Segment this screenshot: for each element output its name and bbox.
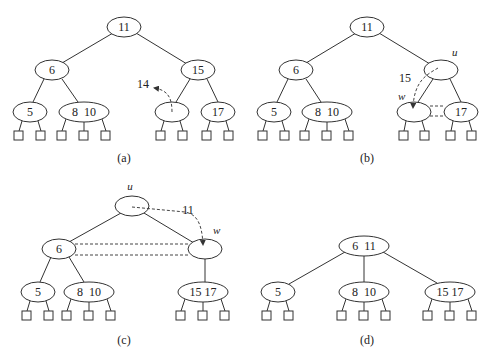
node-label: 6 11 [352, 239, 376, 253]
label-u: u [452, 46, 458, 58]
node-label: 5 [35, 285, 41, 299]
annotation-key: 14 [137, 77, 149, 91]
node-label: 8 10 [352, 285, 376, 299]
annotation-key: 11 [182, 203, 194, 217]
node-label: 17 [212, 105, 224, 119]
panel-d: 6 11 5 8 10 15 17 (d) [261, 236, 476, 347]
label-u: u [127, 180, 133, 192]
label-w: w [398, 90, 406, 102]
panel-caption: (c) [117, 333, 130, 347]
node-w [397, 102, 431, 122]
panel-caption: (b) [360, 151, 374, 165]
node-w [188, 239, 222, 259]
label-w: w [213, 224, 221, 236]
node-label: 6 [293, 63, 299, 77]
external-nodes [14, 119, 233, 140]
node-label: 11 [118, 20, 130, 34]
node-label: 6 [49, 63, 55, 77]
node-label: 15 17 [190, 285, 217, 299]
node-label: 6 [56, 242, 62, 256]
node-label: 5 [27, 105, 33, 119]
node-label: 8 10 [77, 285, 101, 299]
node-label: 15 [192, 63, 204, 77]
b-tree-deletion-diagram: 11 6 15 5 8 10 17 14 (a) [0, 0, 493, 356]
panel-caption: (d) [360, 333, 374, 347]
external-nodes [258, 119, 476, 140]
node-u [424, 60, 458, 80]
node-label: 8 10 [315, 105, 339, 119]
node-label: 5 [271, 105, 277, 119]
node-label: 17 [455, 105, 467, 119]
node-label: 15 17 [437, 285, 464, 299]
node-label: 8 10 [72, 105, 96, 119]
annotation-key: 15 [399, 71, 411, 85]
node-label: 11 [361, 20, 373, 34]
panel-a: 11 6 15 5 8 10 17 14 (a) [13, 17, 235, 165]
panel-caption: (a) [117, 151, 130, 165]
node-label: 5 [275, 285, 281, 299]
node-u [115, 196, 149, 216]
panel-c: u 6 w 11 5 8 10 15 17 (c) [21, 180, 229, 347]
panel-b: 11 6 u 5 8 10 w 17 15 (b) [257, 17, 478, 165]
